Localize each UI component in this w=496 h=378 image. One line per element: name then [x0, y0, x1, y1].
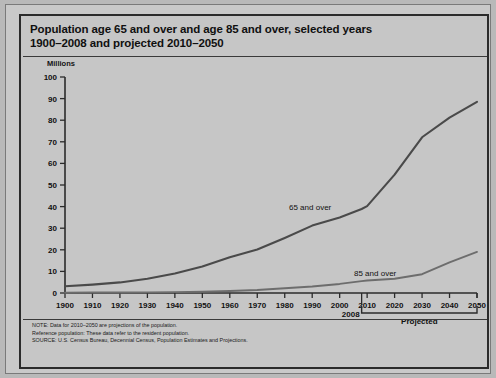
- x-axis-tick-label: 1910: [84, 301, 102, 310]
- y-axis-tick-label: 80: [48, 116, 57, 125]
- x-axis: 1900191019201930194019501960197019801990…: [56, 293, 486, 310]
- x-axis-tick-label: 2000: [331, 301, 349, 310]
- x-axis-tick-label: 2040: [441, 301, 459, 310]
- line-chart: 0102030405060708090100 19001910192019301…: [21, 16, 487, 367]
- x-axis-tick-label: 1920: [111, 301, 129, 310]
- note-line-1: NOTE: Data for 2010–2050 are projections…: [32, 322, 462, 330]
- y-axis-tick-label: 90: [48, 95, 57, 104]
- x-axis-tick-label: 1900: [56, 301, 74, 310]
- x-axis-tick-label: 2020: [386, 301, 404, 310]
- chart-plot-area: 0102030405060708090100 19001910192019301…: [21, 16, 487, 367]
- y-axis-tick-label: 50: [48, 181, 57, 190]
- y-axis-tick-label: 100: [44, 73, 58, 82]
- x-axis-tick-label: 1970: [248, 301, 266, 310]
- x-axis-tick-label: 1980: [276, 301, 294, 310]
- figure-notes: NOTE: Data for 2010–2050 are projections…: [32, 322, 462, 345]
- x-axis-tick-label: 1950: [193, 301, 211, 310]
- y-axis-tick-label: 10: [48, 267, 57, 276]
- x-axis-tick-label: 1940: [166, 301, 184, 310]
- notes-divider: [23, 319, 487, 320]
- y-axis-tick-label: 0: [53, 289, 58, 298]
- series-label-65-and-over: 65 and over: [289, 203, 332, 212]
- x-axis-marker-2008: 2008: [342, 310, 360, 319]
- x-axis-tick-label: 1960: [221, 301, 239, 310]
- y-axis-tick-label: 60: [48, 159, 57, 168]
- y-axis-tick-label: 30: [48, 224, 57, 233]
- note-line-2: Reference population: These data refer t…: [32, 330, 462, 338]
- series-line-65-and-over: [65, 102, 477, 286]
- y-axis-tick-label: 40: [48, 203, 57, 212]
- figure-outer-frame: Population age 65 and over and age 85 an…: [5, 4, 491, 374]
- y-axis-tick-label: 70: [48, 138, 57, 147]
- x-axis-tick-label: 1930: [139, 301, 157, 310]
- x-axis-tick-label: 1990: [303, 301, 321, 310]
- y-axis: 0102030405060708090100: [44, 73, 65, 298]
- data-series-group: [65, 102, 477, 293]
- series-line-85-and-over: [65, 252, 477, 293]
- note-line-3: SOURCE: U.S. Census Bureau, Decennial Ce…: [32, 337, 462, 345]
- figure-inner-frame: Population age 65 and over and age 85 an…: [19, 14, 489, 369]
- x-axis-tick-label: 2030: [413, 301, 431, 310]
- y-axis-tick-label: 20: [48, 246, 57, 255]
- series-label-85-and-over: 85 and over: [354, 269, 397, 278]
